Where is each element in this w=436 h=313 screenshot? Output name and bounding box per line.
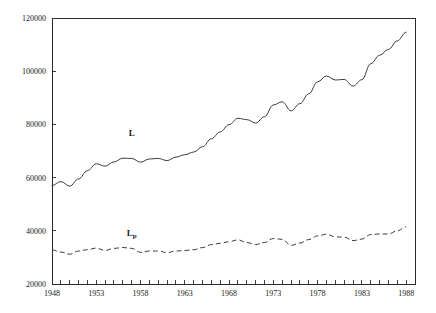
chart-page: 20000400006000080000100000120000 1948195…: [0, 0, 436, 313]
line-chart: 20000400006000080000100000120000 1948195…: [0, 0, 436, 313]
plot-border: [52, 18, 415, 284]
series-group: [52, 32, 406, 254]
x-tick-label: 1953: [88, 289, 104, 298]
series-line-l: [52, 32, 406, 186]
x-tick-label: 1958: [133, 289, 149, 298]
x-tick-label: 1988: [398, 289, 414, 298]
series-line-lp: [52, 227, 406, 254]
x-tick-label: 1963: [177, 289, 193, 298]
y-tick-label: 120000: [22, 14, 46, 23]
y-axis-ticks: 20000400006000080000100000120000: [22, 14, 56, 289]
y-tick-label: 60000: [26, 174, 46, 183]
x-tick-label: 1968: [221, 289, 237, 298]
x-tick-label: 1983: [354, 289, 370, 298]
y-tick-label: 80000: [26, 120, 46, 129]
y-tick-label: 40000: [26, 227, 46, 236]
x-tick-label: 1978: [310, 289, 326, 298]
series-label-lp: Lp: [127, 228, 137, 240]
y-tick-label: 100000: [22, 67, 46, 76]
series-label-l: L: [129, 128, 135, 138]
x-axis-ticks: 194819531958196319681973197819831988: [44, 280, 415, 298]
x-tick-label: 1948: [44, 289, 60, 298]
y-tick-label: 20000: [26, 280, 46, 289]
series-labels: LLp: [127, 128, 137, 239]
x-tick-label: 1973: [265, 289, 281, 298]
plot-frame: [52, 18, 415, 284]
